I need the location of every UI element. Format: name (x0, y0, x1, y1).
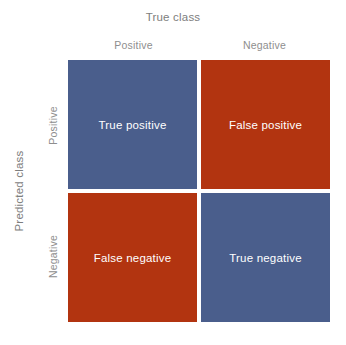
matrix-grid: True positive False positive False negat… (68, 60, 330, 322)
confusion-matrix-figure: True class Positive Negative Predicted c… (0, 0, 346, 345)
predicted-class-axis-title: Predicted class (10, 60, 28, 322)
cell-false-positive[interactable]: False positive (201, 60, 330, 189)
column-tick-positive: Positive (68, 39, 199, 51)
cell-true-negative-label: True negative (229, 252, 302, 264)
true-class-axis-title: True class (0, 11, 346, 23)
cell-false-negative-label: False negative (94, 252, 172, 264)
row-tick-positive: Positive (45, 60, 61, 191)
cell-false-negative[interactable]: False negative (68, 193, 197, 322)
cell-true-positive-label: True positive (98, 119, 166, 131)
row-tick-negative: Negative (45, 191, 61, 322)
cell-false-positive-label: False positive (229, 119, 302, 131)
cell-true-positive[interactable]: True positive (68, 60, 197, 189)
cell-true-negative[interactable]: True negative (201, 193, 330, 322)
column-tick-negative: Negative (199, 39, 330, 51)
